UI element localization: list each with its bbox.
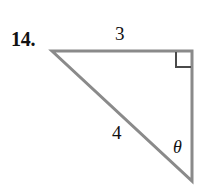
side-length-label-hypotenuse: 4 <box>112 123 122 142</box>
geometry-figure: 14. 3 4 θ <box>0 0 207 185</box>
side-length-label-top: 3 <box>115 24 125 43</box>
angle-label-theta: θ <box>173 138 182 156</box>
right-angle-marker-icon <box>176 52 191 67</box>
triangle-shape <box>52 51 192 181</box>
problem-number-label: 14. <box>11 29 35 49</box>
